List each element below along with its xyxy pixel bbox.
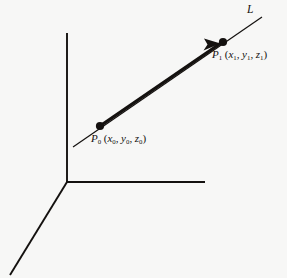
p0-subscript: 0 bbox=[98, 138, 101, 145]
p1-comma-1: , bbox=[237, 48, 240, 60]
line-label-L: L bbox=[247, 4, 253, 16]
p1-close-paren: ) bbox=[263, 48, 267, 60]
figure-canvas: L P1(x1,y1,z1) P0(x0,y0,z0) bbox=[0, 0, 287, 278]
p1-symbol: P bbox=[212, 48, 219, 60]
p1-subscript: 1 bbox=[219, 54, 222, 61]
point-label-p0: P0(x0,y0,z0) bbox=[91, 133, 146, 144]
point-p1-dot bbox=[219, 38, 227, 46]
p0-close-paren: ) bbox=[142, 132, 146, 144]
line-L-segment-p0-p1 bbox=[100, 43, 221, 126]
p1-comma-2: , bbox=[250, 48, 253, 60]
p0-symbol: P bbox=[91, 132, 98, 144]
p0-comma-2: , bbox=[129, 132, 132, 144]
p0-comma-1: , bbox=[116, 132, 119, 144]
coordinate-axes bbox=[10, 33, 205, 275]
line-label-text: L bbox=[247, 3, 253, 15]
point-label-p1: P1(x1,y1,z1) bbox=[212, 49, 267, 60]
z-axis bbox=[10, 182, 67, 275]
point-p0-dot bbox=[96, 122, 104, 130]
